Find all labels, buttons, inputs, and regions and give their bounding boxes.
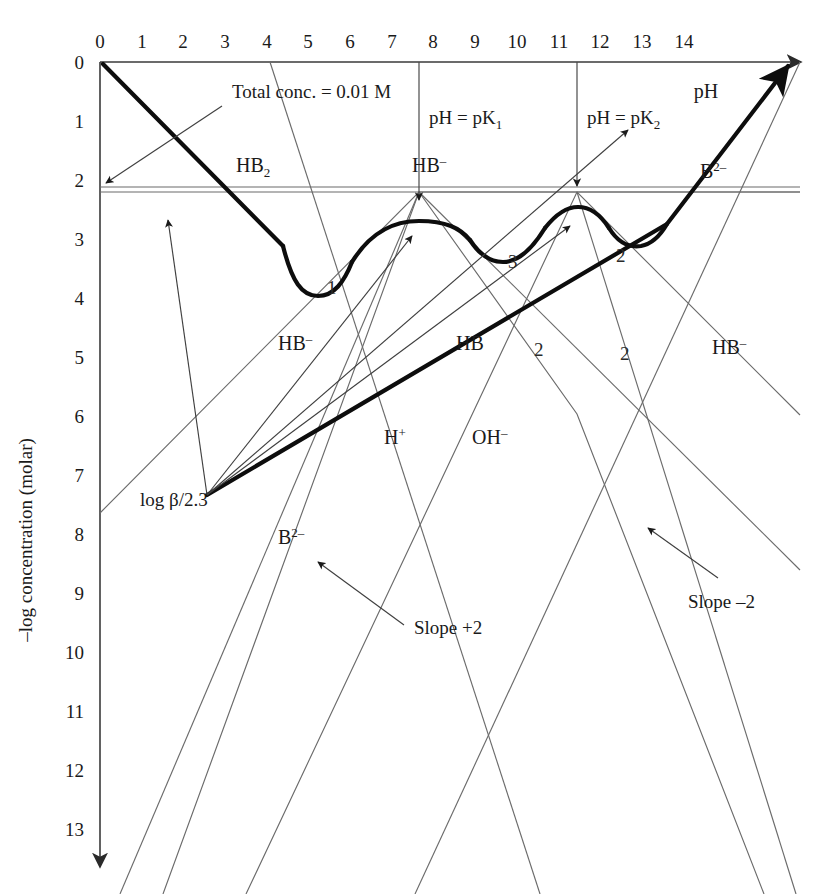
- y-tick-10: 10: [65, 642, 84, 663]
- x-tick-4: 4: [262, 31, 272, 52]
- y-tick-0: 0: [75, 52, 85, 73]
- x-tick-8: 8: [428, 31, 438, 52]
- hb2-thin-line: [100, 192, 764, 894]
- hb2-label: HB2: [236, 154, 270, 180]
- axes-group: [100, 62, 800, 866]
- y-tick-labels: 0 1 2 3 4 5 6 7 8 9 10 11 12 13: [65, 52, 85, 840]
- x-tick-2: 2: [178, 31, 188, 52]
- y-tick-1: 1: [75, 111, 85, 132]
- hb-minus-left-label: HB–: [278, 331, 313, 354]
- x-tick-12: 12: [591, 31, 610, 52]
- log-beta-arrow-left: [168, 220, 207, 495]
- y-axis-title: –log concentration (molar): [15, 438, 37, 643]
- total-conc-arrow: [106, 106, 222, 183]
- pk1-label: pH = pK1: [429, 107, 502, 132]
- y-tick-9: 9: [75, 583, 85, 604]
- y-tick-6: 6: [75, 406, 85, 427]
- x-tick-1: 1: [137, 31, 147, 52]
- x-tick-0: 0: [95, 31, 105, 52]
- hb-minus-right-label: HB–: [712, 335, 747, 358]
- b2-minus-lower-label: B2–: [278, 525, 305, 548]
- x-tick-3: 3: [220, 31, 230, 52]
- annotation-arrows-group: [106, 106, 718, 625]
- x-tick-7: 7: [387, 31, 397, 52]
- figure-root: 0 1 2 3 4 5 6 7 8 9 10 11 12 13 14 0 1 2…: [0, 0, 835, 894]
- slope-marker-1: 1: [327, 277, 337, 298]
- y-tick-3: 3: [75, 229, 85, 250]
- h-plus-label: H+: [384, 425, 406, 448]
- slope-plus-2-leader: [318, 562, 404, 625]
- rise-left-line: [120, 192, 419, 894]
- hb-minus-top-label: HB–: [412, 153, 447, 176]
- x-tick-10: 10: [508, 31, 527, 52]
- b2-minus-thin-line: [163, 192, 800, 894]
- slope-marker-3: 3: [508, 251, 518, 272]
- y-tick-12: 12: [65, 760, 84, 781]
- slope-marker-2c: 2: [620, 343, 630, 364]
- log-c-vs-ph-diagram: 0 1 2 3 4 5 6 7 8 9 10 11 12 13 14 0 1 2…: [0, 0, 835, 894]
- log-beta-label: log β/2.3: [140, 489, 208, 510]
- b2-minus-top-label: B2–: [700, 159, 727, 182]
- x-axis-title: pH: [694, 80, 718, 103]
- y-tick-7: 7: [75, 465, 85, 486]
- x-tick-5: 5: [303, 31, 313, 52]
- y-tick-5: 5: [75, 347, 85, 368]
- slope-marker-2b: 2: [534, 339, 544, 360]
- slope-minus-2-label: Slope –2: [688, 591, 755, 612]
- y-tick-11: 11: [66, 701, 84, 722]
- bold-crest-2: [545, 207, 609, 228]
- y-tick-2: 2: [75, 170, 85, 191]
- x-tick-14: 14: [675, 31, 695, 52]
- bold-trough-1: [283, 246, 352, 296]
- log-beta-arrow-far: [207, 130, 628, 495]
- y-tick-4: 4: [75, 288, 85, 309]
- bold-master-curve-group: [103, 64, 788, 495]
- total-conc-label: Total conc. = 0.01 M: [232, 81, 391, 102]
- hb-mid-label: HB: [456, 332, 484, 354]
- x-tick-labels: 0 1 2 3 4 5 6 7 8 9 10 11 12 13 14: [95, 31, 694, 52]
- pk2-label: pH = pK2: [587, 107, 660, 132]
- x-tick-9: 9: [470, 31, 480, 52]
- slope-plus-2-label: Slope +2: [414, 617, 482, 638]
- y-tick-13: 13: [65, 819, 84, 840]
- bold-crest-1: [352, 221, 470, 262]
- slope-minus-2-leader: [648, 528, 718, 578]
- x-tick-13: 13: [633, 31, 652, 52]
- slope-marker-2a: 2: [616, 245, 626, 266]
- oh-minus-label: OH–: [472, 425, 508, 448]
- y-tick-8: 8: [75, 524, 85, 545]
- descend-steep-line: [577, 192, 796, 894]
- x-tick-11: 11: [550, 31, 568, 52]
- x-tick-6: 6: [345, 31, 355, 52]
